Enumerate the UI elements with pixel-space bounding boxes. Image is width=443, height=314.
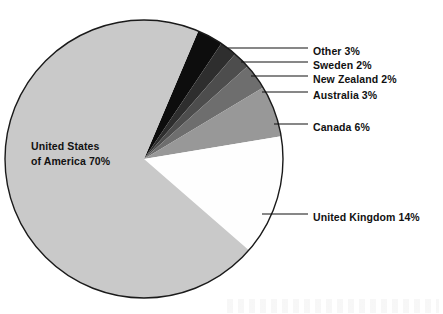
new-zealand-label: New Zealand 2% (313, 73, 397, 85)
pie-chart: Other 3%Sweden 2%New Zealand 2%Australia… (0, 0, 443, 314)
canada-label: Canada 6% (313, 121, 370, 133)
united-kingdom-label: United Kingdom 14% (313, 211, 420, 223)
inner-slice-label-line2: of America 70% (31, 155, 111, 167)
australia-label: Australia 3% (313, 89, 378, 101)
footer-watermark (227, 299, 439, 313)
pie-chart-page: Other 3%Sweden 2%New Zealand 2%Australia… (0, 0, 443, 314)
other-label: Other 3% (313, 45, 360, 57)
callout-labels-group: Other 3%Sweden 2%New Zealand 2%Australia… (313, 45, 420, 223)
inner-slice-label-line1: United States (31, 140, 99, 152)
sweden-label: Sweden 2% (313, 59, 372, 71)
